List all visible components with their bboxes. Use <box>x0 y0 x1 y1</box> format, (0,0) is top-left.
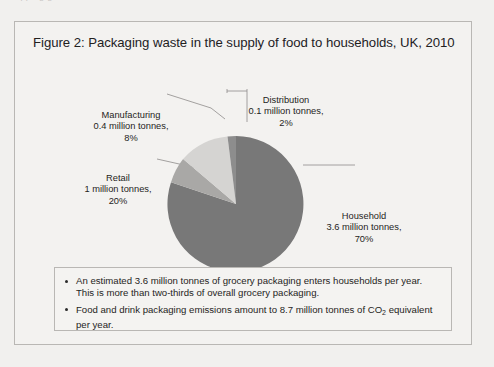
pie-label-retail-value: 1 million tonnes, <box>70 184 166 195</box>
pie-chart: Manufacturing 0.4 million tonnes, 8% Ret… <box>15 56 471 270</box>
pie-label-household: Household 3.6 million tonnes, 70% <box>305 211 423 245</box>
pie-label-distribution-value: 0.1 million tonnes, <box>233 106 339 117</box>
pie-label-manufacturing: Manufacturing 0.4 million tonnes, 8% <box>77 110 185 144</box>
pie-label-manufacturing-name: Manufacturing <box>77 110 185 121</box>
pie-label-household-name: Household <box>305 211 423 222</box>
notes-list: An estimated 3.6 million tonnes of groce… <box>55 268 451 332</box>
pie-label-retail-percent: 20% <box>70 196 166 207</box>
note-bullet-2: Food and drink packaging emissions amoun… <box>65 304 441 332</box>
note-bullet-2-text: Food and drink packaging emissions amoun… <box>76 304 382 315</box>
figure-frame: Figure 2: Packaging waste in the supply … <box>14 21 472 345</box>
bullet-dot-icon <box>65 280 68 283</box>
bullet-dot-icon <box>65 308 68 311</box>
pie-label-manufacturing-percent: 8% <box>77 133 185 144</box>
note-bullet-1-text: An estimated 3.6 million tonnes of groce… <box>76 275 422 298</box>
figure-title: Figure 2: Packaging waste in the supply … <box>33 35 455 50</box>
notes-box: An estimated 3.6 million tonnes of groce… <box>54 267 452 331</box>
note-bullet-1: An estimated 3.6 million tonnes of groce… <box>65 275 441 300</box>
top-remnant-text: ipping g <box>18 0 53 1</box>
pie-label-household-value: 3.6 million tonnes, <box>305 222 423 233</box>
pie-label-retail: Retail 1 million tonnes, 20% <box>70 173 166 207</box>
pie-label-household-percent: 70% <box>305 234 423 245</box>
pie-label-manufacturing-value: 0.4 million tonnes, <box>77 121 185 132</box>
pie-label-distribution-percent: 2% <box>233 118 339 129</box>
page-top-text-remnant: ipping g <box>0 0 494 9</box>
pie-label-distribution: Distribution 0.1 million tonnes, 2% <box>233 95 339 129</box>
pie-label-retail-name: Retail <box>70 173 166 184</box>
pie-label-distribution-name: Distribution <box>233 95 339 106</box>
